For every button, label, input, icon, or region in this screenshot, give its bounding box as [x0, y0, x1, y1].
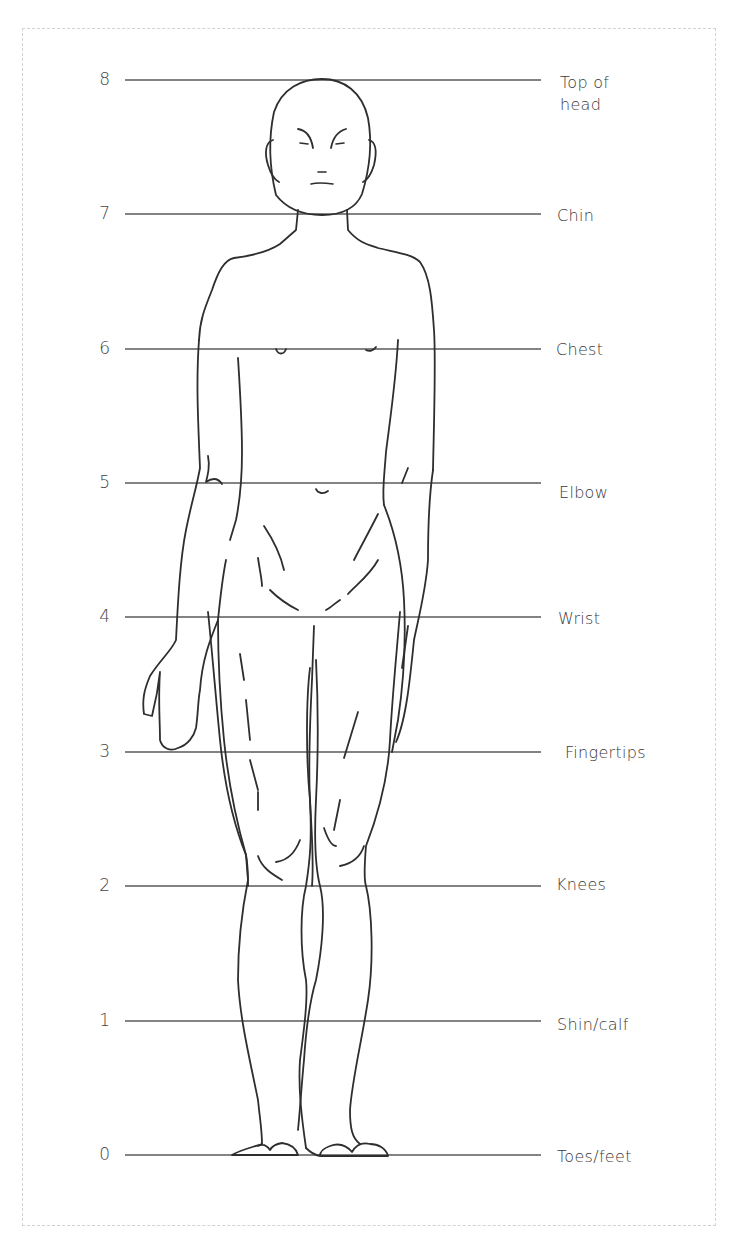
right-knee-detail [324, 828, 364, 866]
mouth [311, 183, 333, 184]
right-eye [336, 143, 344, 144]
right-foot [306, 1143, 388, 1156]
left-eye [300, 143, 308, 144]
left-foot [232, 1143, 298, 1155]
right-hip-line [354, 514, 378, 560]
left-nipple [276, 349, 286, 354]
right-brow [331, 129, 346, 148]
label-elbow: Elbow [559, 482, 608, 504]
right-leg-outer [350, 612, 400, 1144]
left-brow [298, 129, 313, 148]
right-forearm-inner [384, 505, 405, 752]
left-leg-outer [208, 612, 262, 1144]
neck-left [199, 210, 298, 340]
label-knees: Knees [556, 874, 606, 896]
scale-number-1: 1 [80, 1012, 110, 1029]
left-elbow-detail [206, 456, 222, 484]
right-arm [396, 470, 433, 742]
right-elbow-detail [402, 468, 408, 483]
right-inner-arm [383, 340, 398, 505]
label-toes-feet: Toes/feet [557, 1146, 632, 1168]
label-top-of-head: Top of head [560, 72, 609, 115]
left-hip-line [264, 526, 284, 570]
scale-number-8: 8 [80, 71, 110, 88]
navel [316, 489, 328, 493]
right-groin-line [326, 560, 378, 610]
label-chest: Chest [556, 339, 603, 361]
neck-right [347, 210, 435, 470]
scale-number-4: 4 [80, 608, 110, 625]
scale-number-7: 7 [80, 205, 110, 222]
left-torso [218, 560, 248, 886]
scale-number-5: 5 [80, 474, 110, 491]
scale-number-3: 3 [80, 743, 110, 760]
label-shin-calf: Shin/calf [557, 1014, 629, 1036]
label-wrist: Wrist [558, 608, 600, 630]
scale-number-0: 0 [80, 1146, 110, 1163]
left-inner-arm [230, 358, 242, 540]
left-ear [266, 140, 279, 182]
left-arm [143, 340, 218, 750]
label-fingertips: Fingertips [565, 742, 646, 764]
head-outline [270, 79, 370, 215]
scale-number-2: 2 [80, 877, 110, 894]
left-knee-detail [258, 840, 300, 880]
left-groin-line [258, 558, 298, 610]
guide-lines [125, 80, 541, 1155]
label-chin: Chin [557, 205, 594, 227]
right-thigh-shading [334, 712, 358, 830]
left-thigh-shading [240, 654, 258, 810]
scale-number-6: 6 [80, 340, 110, 357]
